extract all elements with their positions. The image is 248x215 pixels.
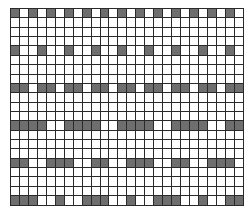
grid-cell-filled — [37, 120, 46, 129]
grid-cell-empty — [144, 167, 153, 176]
grid-cell-empty — [108, 55, 117, 64]
grid-cell-empty — [19, 55, 28, 64]
grid-cell-empty — [126, 8, 135, 17]
grid-cell-empty — [135, 176, 144, 185]
grid-cell-empty — [46, 102, 55, 111]
grid-cell-empty — [28, 55, 37, 64]
grid-cell-filled — [180, 83, 189, 92]
grid-cell-filled — [198, 195, 207, 204]
grid-cell-empty — [216, 167, 225, 176]
grid-cell-empty — [117, 158, 126, 167]
grid-cell-empty — [73, 17, 82, 26]
grid-cell-empty — [216, 92, 225, 101]
grid-cell-empty — [19, 36, 28, 45]
grid-cell-empty — [162, 27, 171, 36]
grid-cell-empty — [126, 74, 135, 83]
grid-cell-empty — [82, 92, 91, 101]
grid-cell-empty — [73, 167, 82, 176]
grid-cell-empty — [162, 64, 171, 73]
grid-cell-empty — [55, 8, 64, 17]
grid-cell-filled — [117, 83, 126, 92]
grid-cell-filled — [100, 8, 109, 17]
grid-cell-filled — [180, 120, 189, 129]
grid-cell-empty — [135, 111, 144, 120]
grid-cell-empty — [207, 17, 216, 26]
grid-cell-filled — [180, 158, 189, 167]
grid-cell-filled — [117, 45, 126, 54]
grid-cell-filled — [100, 83, 109, 92]
grid-cell-empty — [10, 74, 19, 83]
grid-cell-empty — [28, 148, 37, 157]
grid-cell-empty — [91, 139, 100, 148]
grid-cell-empty — [189, 17, 198, 26]
grid-cell-empty — [100, 167, 109, 176]
grid-cell-empty — [19, 186, 28, 195]
grid-cell-empty — [207, 148, 216, 157]
grid-cell-empty — [73, 111, 82, 120]
grid-cell-empty — [91, 167, 100, 176]
grid-cell-empty — [73, 55, 82, 64]
grid-cell-filled — [73, 83, 82, 92]
grid-cell-empty — [108, 120, 117, 129]
grid-cell-empty — [46, 120, 55, 129]
grid-cell-empty — [91, 55, 100, 64]
grid-cell-empty — [108, 186, 117, 195]
grid-cell-empty — [144, 176, 153, 185]
grid-cell-empty — [37, 8, 46, 17]
grid-cell-empty — [10, 167, 19, 176]
grid-cell-filled — [46, 8, 55, 17]
grid-cell-empty — [180, 55, 189, 64]
grid-cell-empty — [207, 120, 216, 129]
grid-cell-empty — [117, 139, 126, 148]
grid-cell-empty — [37, 148, 46, 157]
grid-cell-empty — [198, 148, 207, 157]
grid-cell-empty — [37, 55, 46, 64]
grid-cell-empty — [234, 55, 243, 64]
grid-cell-empty — [100, 176, 109, 185]
grid-cell-empty — [46, 195, 55, 204]
grid-cell-empty — [189, 45, 198, 54]
grid-cell-empty — [91, 74, 100, 83]
grid-cell-empty — [46, 17, 55, 26]
grid-cell-empty — [153, 36, 162, 45]
grid-cell-filled — [19, 158, 28, 167]
grid-cell-empty — [10, 102, 19, 111]
grid-cell-filled — [144, 83, 153, 92]
grid-cell-empty — [216, 195, 225, 204]
grid-cell-filled — [234, 83, 243, 92]
grid-cell-empty — [55, 176, 64, 185]
grid-cell-empty — [55, 45, 64, 54]
grid-cell-empty — [117, 55, 126, 64]
grid-cell-empty — [73, 45, 82, 54]
grid-cell-empty — [135, 148, 144, 157]
grid-cell-filled — [225, 8, 234, 17]
grid-cell-empty — [46, 27, 55, 36]
grid-cell-empty — [73, 130, 82, 139]
grid-cell-empty — [117, 176, 126, 185]
grid-cell-empty — [117, 64, 126, 73]
grid-cell-empty — [64, 167, 73, 176]
grid-cell-empty — [19, 27, 28, 36]
grid-cell-empty — [108, 158, 117, 167]
grid-cell-empty — [82, 111, 91, 120]
grid-cell-filled — [91, 45, 100, 54]
grid-cell-empty — [171, 130, 180, 139]
grid-cell-empty — [207, 167, 216, 176]
grid-cell-empty — [144, 139, 153, 148]
grid-cell-empty — [144, 27, 153, 36]
grid-cell-filled — [126, 83, 135, 92]
grid-cell-empty — [64, 102, 73, 111]
grid-cell-empty — [37, 36, 46, 45]
grid-cell-empty — [180, 45, 189, 54]
grid-cell-filled — [171, 120, 180, 129]
grid-cell-empty — [216, 17, 225, 26]
grid-cell-empty — [126, 148, 135, 157]
grid-cell-empty — [153, 158, 162, 167]
grid-cell-filled — [171, 45, 180, 54]
grid-cell-empty — [108, 83, 117, 92]
grid-cell-empty — [189, 148, 198, 157]
grid-cell-empty — [126, 17, 135, 26]
grid-cell-empty — [171, 55, 180, 64]
grid-cell-empty — [234, 176, 243, 185]
grid-cell-empty — [207, 111, 216, 120]
